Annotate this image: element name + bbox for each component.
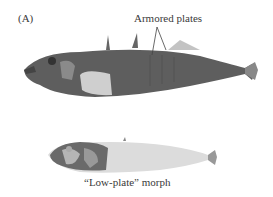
low-plate-morph-caption: “Low-plate” morph (84, 176, 170, 188)
panel-label: (A) (18, 12, 33, 24)
low-plate-fish-image (48, 137, 217, 173)
figure-canvas (0, 0, 273, 197)
armored-plates-label: Armored plates (134, 12, 202, 24)
armored-fish-image (24, 33, 258, 97)
